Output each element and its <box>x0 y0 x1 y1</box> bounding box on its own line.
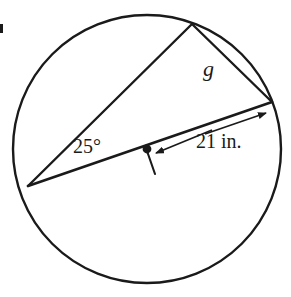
radius-dimension-label: 21 in. <box>196 131 242 151</box>
center-tick-mark <box>147 151 155 174</box>
chord-left-to-top <box>28 24 192 186</box>
arc-label-g: g <box>203 58 214 80</box>
edge-artifact-mark <box>0 24 3 33</box>
inscribed-angle-label: 25° <box>73 136 101 156</box>
figure-canvas <box>0 0 291 297</box>
geometry-figure: 25° g 21 in. <box>0 0 291 297</box>
